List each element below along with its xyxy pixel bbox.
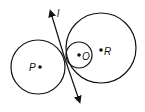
label-l: l	[57, 8, 60, 19]
circle-p	[11, 40, 65, 94]
tangent-line-l	[51, 13, 64, 56]
circle-r	[66, 13, 136, 83]
label-o: O	[82, 51, 90, 62]
label-p: P	[29, 62, 36, 73]
tangent-line-l-lower	[64, 56, 79, 100]
label-r: R	[104, 46, 111, 57]
point-o	[77, 53, 81, 57]
point-r	[99, 48, 103, 52]
point-p	[38, 65, 42, 69]
geometry-diagram: l P O R	[0, 0, 145, 112]
